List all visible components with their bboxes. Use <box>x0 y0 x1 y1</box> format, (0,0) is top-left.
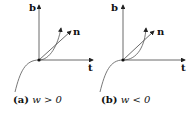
panel-b-figure <box>95 5 185 92</box>
caption-a: (a) w > 0 <box>13 94 62 105</box>
label-t-a: t <box>88 63 93 73</box>
n-vector-a <box>39 31 71 60</box>
label-b-b: b <box>111 3 118 13</box>
label-n-b: n <box>157 27 164 37</box>
caption-a-tag: (a) <box>13 94 29 105</box>
label-n-a: n <box>73 27 80 37</box>
panel-a-figure <box>15 5 93 92</box>
label-b-a: b <box>29 3 36 13</box>
origin-point-a <box>37 58 40 61</box>
origin-point-b <box>121 58 124 61</box>
label-t-b: t <box>181 63 186 73</box>
caption-b-tag: (b) <box>101 94 117 105</box>
caption-a-math: w > 0 <box>32 94 62 105</box>
caption-b-math: w < 0 <box>121 94 151 105</box>
caption-b: (b) w < 0 <box>101 94 150 105</box>
n-vector-b <box>123 31 154 60</box>
